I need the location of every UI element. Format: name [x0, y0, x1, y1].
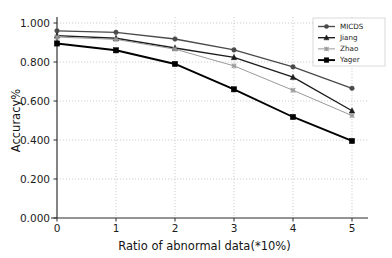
data-point-marker — [349, 138, 354, 143]
y-tick-label: 0.200 — [20, 173, 50, 185]
series-line — [57, 43, 352, 141]
data-point-marker — [54, 41, 59, 46]
data-point-marker — [172, 61, 177, 66]
x-axis-title: Ratio of abnormal data(*10%) — [118, 239, 290, 253]
data-point-marker — [324, 58, 329, 63]
series-line — [57, 31, 352, 89]
legend-label: Zhao — [340, 44, 358, 53]
data-point-marker — [350, 113, 355, 118]
data-point-marker — [291, 65, 296, 70]
x-axis-tick-labels: 012345 — [54, 222, 356, 234]
data-point-marker — [324, 47, 328, 51]
data-point-marker — [114, 30, 119, 35]
x-tick-label: 1 — [113, 222, 120, 234]
x-tick-label: 0 — [54, 222, 61, 234]
series-yager — [54, 41, 354, 144]
x-tick-label: 2 — [172, 222, 179, 234]
series-line — [57, 36, 352, 111]
y-tick-label: 0.800 — [20, 56, 50, 68]
data-point-marker — [231, 87, 236, 92]
data-point-marker — [290, 114, 295, 119]
y-tick-label: 0.000 — [20, 212, 50, 224]
y-tick-label: 0.600 — [20, 95, 50, 107]
data-point-marker — [55, 35, 60, 40]
legend-label: Jiang — [339, 33, 358, 42]
data-point-marker — [232, 48, 237, 53]
data-point-marker — [173, 47, 178, 52]
legend-label: MICDS — [340, 22, 364, 31]
chart-legend: MICDSJiangZhaoYager — [313, 18, 385, 66]
x-tick-label: 5 — [349, 222, 356, 234]
chart-canvas: 0.0000.2000.4000.6000.8001.000 012345 Ac… — [0, 0, 392, 258]
legend-label: Yager — [339, 55, 360, 64]
data-point-marker — [232, 64, 237, 69]
data-point-marker — [113, 48, 118, 53]
y-axis-tick-labels: 0.0000.2000.4000.6000.8001.000 — [20, 17, 50, 224]
data-point-marker — [291, 88, 296, 93]
data-series-group — [54, 29, 355, 144]
y-axis-title: Accuracy% — [9, 89, 23, 153]
x-tick-label: 3 — [231, 222, 238, 234]
data-point-marker — [324, 24, 328, 28]
data-point-marker — [114, 37, 119, 42]
data-point-marker — [173, 37, 178, 42]
x-tick-label: 4 — [290, 222, 297, 234]
data-point-marker — [350, 86, 355, 91]
y-tick-label: 0.400 — [20, 134, 50, 146]
accuracy-line-chart: 0.0000.2000.4000.6000.8001.000 012345 Ac… — [0, 0, 392, 258]
y-tick-label: 1.000 — [20, 17, 50, 29]
